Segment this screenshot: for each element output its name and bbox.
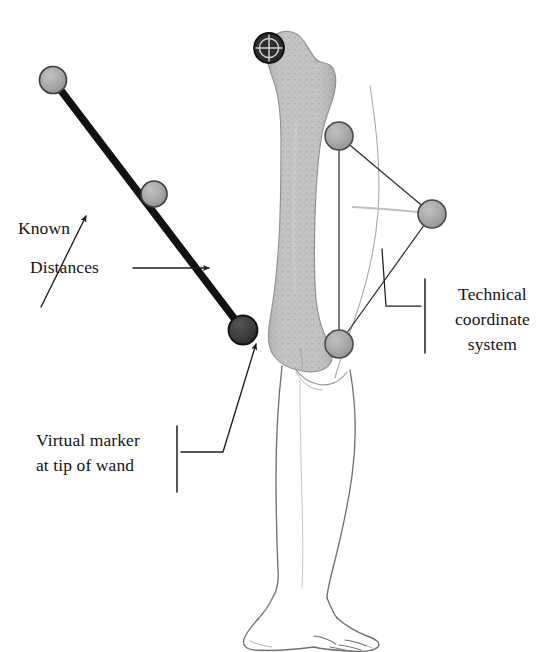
- wand-marker-middle: [141, 181, 167, 207]
- virtual-marker-leader: [181, 344, 256, 452]
- cluster-axis-whisker: [352, 207, 418, 212]
- cluster-edge-top-right: [339, 136, 432, 214]
- cluster-edge-right-bottom: [339, 214, 432, 344]
- femur-bone: [266, 31, 336, 371]
- technical-marker-top: [325, 122, 353, 150]
- label-technical-coordinate-system: Technical coordinate system: [455, 282, 530, 357]
- label-virtual-marker: Virtual marker at tip of wand: [36, 428, 140, 478]
- technical-cluster-linkage: [339, 136, 432, 344]
- technical-marker-right: [418, 200, 446, 228]
- marker-group: [40, 33, 447, 358]
- hip-joint-center-marker: [254, 33, 284, 63]
- label-known: Known: [18, 216, 70, 241]
- wand-tip-marker: [229, 316, 258, 345]
- technical-marker-bottom: [325, 330, 353, 358]
- label-distances: Distances: [30, 255, 99, 280]
- wand-marker-proximal: [40, 67, 67, 94]
- figure-root: Known Distances Virtual marker at tip of…: [0, 0, 542, 652]
